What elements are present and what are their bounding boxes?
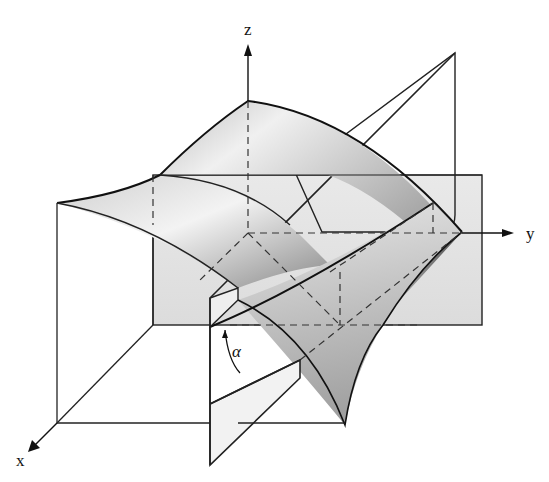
y-axis-arrow-icon (502, 229, 514, 237)
angle-label: α (232, 342, 242, 361)
angle-arrow-icon (222, 330, 228, 338)
z-axis-arrow-icon (244, 44, 252, 56)
x-axis-label: x (16, 451, 25, 470)
box-diagonal (57, 325, 153, 423)
y-axis-label: y (526, 224, 535, 243)
diagram-canvas: α z y x (0, 0, 549, 482)
z-axis-label: z (244, 20, 252, 39)
